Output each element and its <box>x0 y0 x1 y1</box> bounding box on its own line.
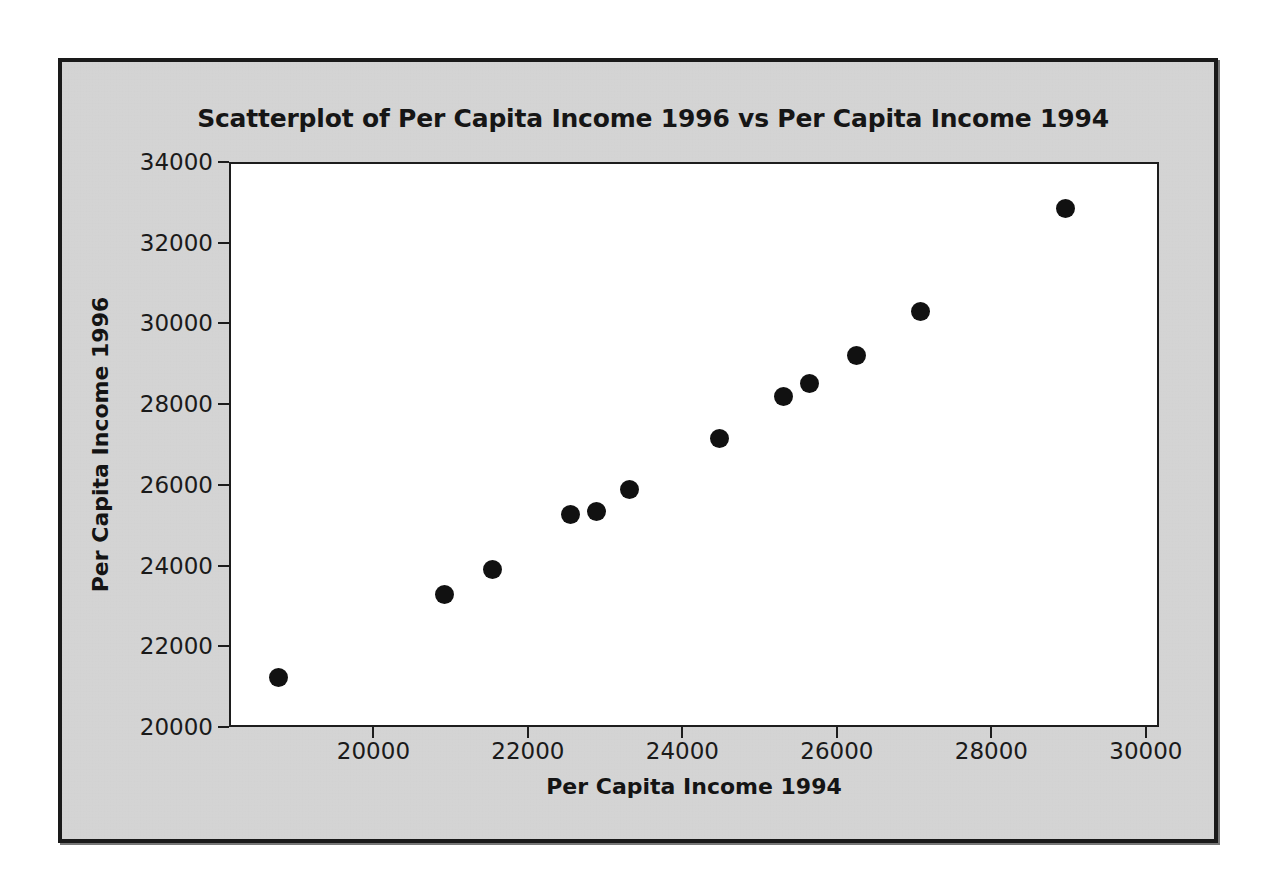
y-tick-label: 24000 <box>140 553 213 579</box>
y-tick-mark <box>218 242 229 244</box>
x-tick-label: 28000 <box>955 738 1028 764</box>
data-point <box>435 585 454 604</box>
data-point <box>269 668 288 687</box>
y-tick-mark <box>218 322 229 324</box>
y-tick-label: 28000 <box>140 391 213 417</box>
y-tick-label: 30000 <box>140 310 213 336</box>
y-tick-mark <box>218 565 229 567</box>
y-tick-mark <box>218 645 229 647</box>
y-tick-label: 20000 <box>140 714 213 740</box>
x-tick-mark <box>681 727 683 738</box>
data-point <box>800 374 819 393</box>
x-tick-label: 24000 <box>646 738 719 764</box>
plot-area <box>229 162 1159 727</box>
data-point <box>561 505 580 524</box>
x-axis-title: Per Capita Income 1994 <box>229 774 1159 799</box>
x-tick-label: 30000 <box>1109 738 1182 764</box>
y-tick-mark <box>218 161 229 163</box>
y-tick-label: 32000 <box>140 230 213 256</box>
y-axis-title: Per Capita Income 1996 <box>86 162 116 727</box>
data-point <box>911 302 930 321</box>
y-tick-mark <box>218 403 229 405</box>
data-point <box>620 480 639 499</box>
scanned-page: Scatterplot of Per Capita Income 1996 vs… <box>0 0 1263 887</box>
data-point <box>774 387 793 406</box>
figure-frame: Scatterplot of Per Capita Income 1996 vs… <box>58 58 1218 843</box>
x-tick-mark <box>836 727 838 738</box>
data-point <box>847 346 866 365</box>
x-tick-mark <box>990 727 992 738</box>
y-tick-label: 34000 <box>140 149 213 175</box>
y-tick-label: 26000 <box>140 472 213 498</box>
data-point <box>483 560 502 579</box>
data-point <box>587 502 606 521</box>
data-point <box>1056 199 1075 218</box>
y-axis-title-text: Per Capita Income 1996 <box>89 297 114 593</box>
x-tick-label: 22000 <box>491 738 564 764</box>
data-point <box>710 429 729 448</box>
x-tick-mark <box>372 727 374 738</box>
y-tick-mark <box>218 484 229 486</box>
y-tick-label: 22000 <box>140 633 213 659</box>
y-tick-mark <box>218 726 229 728</box>
chart-title: Scatterplot of Per Capita Income 1996 vs… <box>148 104 1158 133</box>
x-tick-mark <box>1145 727 1147 738</box>
x-tick-mark <box>527 727 529 738</box>
x-tick-label: 26000 <box>800 738 873 764</box>
x-tick-label: 20000 <box>337 738 410 764</box>
